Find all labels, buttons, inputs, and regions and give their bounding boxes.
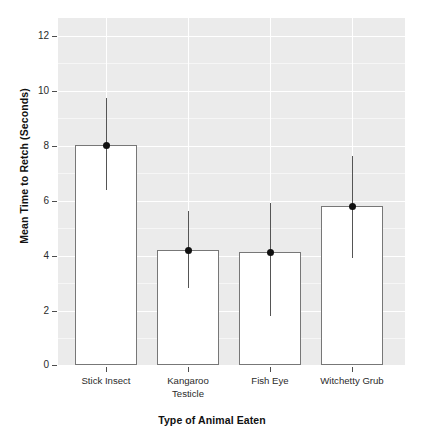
y-tick-mark-0 xyxy=(52,365,57,366)
datapoint-kangaroo-testicle xyxy=(185,247,192,254)
y-tick-6: 6 xyxy=(0,195,58,207)
datapoint-stick-insect xyxy=(103,142,110,149)
y-tick-0: 0 xyxy=(0,359,58,371)
errorbar-fish-eye xyxy=(270,203,271,316)
x-axis: Stick Insect Kangaroo Testicle Fish Eye … xyxy=(58,365,405,415)
y-tick-mark-8 xyxy=(52,146,57,147)
y-tick-mark-12 xyxy=(52,36,57,37)
y-axis: Mean Time to Retch (Seconds) 12 10 8 6 4… xyxy=(0,0,58,441)
y-tick-12: 12 xyxy=(0,30,58,42)
y-tick-label-0: 0 xyxy=(43,359,49,371)
x-tick-label-witchetty-grub-line1: Witchetty Grub xyxy=(320,375,383,386)
plot-panel xyxy=(58,18,405,365)
x-tick-label-fish-eye-line1: Fish Eye xyxy=(251,375,288,386)
y-tick-4: 4 xyxy=(0,250,58,262)
y-tick-mark-6 xyxy=(52,201,57,202)
x-tick-mark-stick-insect xyxy=(106,367,107,372)
y-tick-10: 10 xyxy=(0,85,58,97)
x-tick-mark-fish-eye xyxy=(270,367,271,372)
bar-chart: Mean Time to Retch (Seconds) 12 10 8 6 4… xyxy=(0,0,424,441)
y-tick-label-12: 12 xyxy=(38,30,49,42)
datapoint-fish-eye xyxy=(267,249,274,256)
y-tick-8: 8 xyxy=(0,140,58,152)
x-tick-mark-kangaroo-testicle xyxy=(188,367,189,372)
y-tick-mark-2 xyxy=(52,311,57,312)
y-tick-mark-10 xyxy=(52,91,57,92)
y-tick-label-6: 6 xyxy=(43,195,49,207)
x-axis-title: Type of Animal Eaten xyxy=(0,414,424,426)
datapoint-witchetty-grub xyxy=(349,203,356,210)
y-tick-label-2: 2 xyxy=(43,305,49,317)
x-tick-label-kangaroo-testicle-line2: Testicle xyxy=(172,388,204,399)
x-tick-mark-witchetty-grub xyxy=(352,367,353,372)
x-tick-label-stick-insect-line1: Stick Insect xyxy=(81,375,130,386)
x-tick-label-witchetty-grub: Witchetty Grub xyxy=(297,375,407,388)
x-tick-label-kangaroo-testicle-line1: Kangaroo xyxy=(167,375,209,386)
y-tick-mark-4 xyxy=(52,256,57,257)
y-tick-label-8: 8 xyxy=(43,140,49,152)
y-tick-label-10: 10 xyxy=(38,85,49,97)
y-tick-label-4: 4 xyxy=(43,250,49,262)
y-tick-2: 2 xyxy=(0,305,58,317)
